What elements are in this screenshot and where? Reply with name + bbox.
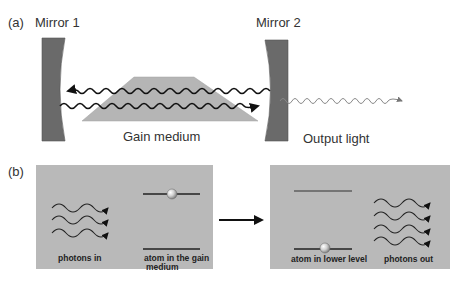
output-light-label: Output light (303, 132, 370, 145)
atom-lower (320, 243, 330, 253)
gain-medium (82, 77, 258, 121)
gain-medium-label: Gain medium (123, 130, 200, 143)
panel-a-label: (a) (8, 16, 24, 29)
atom-upper (167, 189, 177, 199)
mirror-2 (265, 40, 288, 141)
atom-gain-label-line2: medium (146, 263, 179, 272)
atom-lower-level-label: atom in lower level (291, 255, 367, 264)
photons-out-label: photons out (384, 255, 433, 264)
output-light-wave (280, 99, 402, 104)
mirror-1-label: Mirror 1 (35, 16, 80, 29)
mirror-1 (42, 38, 65, 141)
panel-b-label: (b) (8, 165, 24, 178)
laser-diagram (0, 0, 463, 282)
photons-in-label: photons in (58, 254, 101, 263)
mirror-2-label: Mirror 2 (256, 16, 301, 29)
